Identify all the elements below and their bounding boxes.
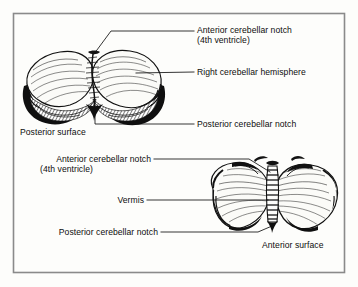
label-anterior-surface: Anterior surface xyxy=(262,240,323,250)
cerebellum-anatomy-figure: Anterior cerebellar notch (4th ventricle… xyxy=(0,0,358,287)
leader-anterior-notch-top xyxy=(94,31,194,54)
label-posterior-cerebellar-notch-top-line1: Posterior cerebellar notch xyxy=(197,119,296,129)
label-vermis: Vermis xyxy=(0,195,144,205)
label-anterior-surface-line1: Anterior surface xyxy=(262,240,323,250)
label-anterior-cerebellar-notch-top-line1: Anterior cerebellar notch xyxy=(197,25,292,35)
leader-posterior-notch-bottom xyxy=(161,226,272,232)
label-anterior-cerebellar-notch-top-line2: (4th ventricle) xyxy=(197,35,292,45)
label-posterior-cerebellar-notch-bottom-line1: Posterior cerebellar notch xyxy=(0,227,158,237)
label-anterior-cerebellar-notch-bottom: Anterior cerebellar notch (4th ventricle… xyxy=(0,154,151,174)
label-right-cerebellar-hemisphere-line1: Right cerebellar hemisphere xyxy=(197,67,306,77)
anterior-view-illustration xyxy=(211,156,337,233)
label-anterior-cerebellar-notch-top: Anterior cerebellar notch (4th ventricle… xyxy=(197,25,292,45)
label-posterior-cerebellar-notch-bottom: Posterior cerebellar notch xyxy=(0,227,158,237)
label-anterior-cerebellar-notch-bottom-line2: (4th ventricle) xyxy=(0,164,151,174)
label-vermis-line1: Vermis xyxy=(0,195,144,205)
label-posterior-surface-line1: Posterior surface xyxy=(20,127,86,137)
label-posterior-cerebellar-notch-top: Posterior cerebellar notch xyxy=(197,119,296,129)
posterior-view-illustration xyxy=(23,50,165,125)
label-posterior-surface: Posterior surface xyxy=(20,127,86,137)
label-anterior-cerebellar-notch-bottom-line1: Anterior cerebellar notch xyxy=(0,154,151,164)
label-right-cerebellar-hemisphere: Right cerebellar hemisphere xyxy=(197,67,306,77)
